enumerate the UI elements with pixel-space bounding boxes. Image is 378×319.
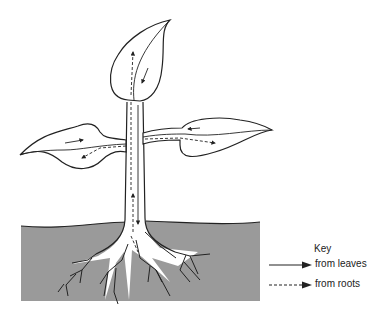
key-title: Key <box>314 243 331 254</box>
solid-arrow-icon <box>268 260 313 270</box>
key-label: from roots <box>315 278 360 289</box>
left-leaf <box>20 124 126 169</box>
key-item-from-roots: from roots <box>268 278 378 292</box>
dashed-arrow-icon <box>268 280 313 290</box>
key-item-from-leaves: from leaves <box>268 258 378 272</box>
key-label: from leaves <box>315 258 367 269</box>
key-legend: Key from leaves from roots <box>268 236 378 296</box>
top-leaf <box>110 20 170 101</box>
right-leaf <box>143 118 272 156</box>
